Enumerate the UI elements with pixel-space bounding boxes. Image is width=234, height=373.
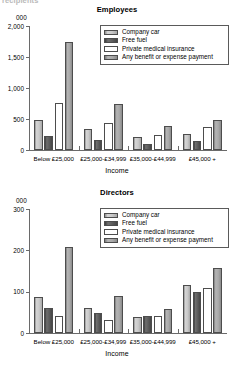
y-axis-unit-directors: 000 bbox=[16, 197, 27, 204]
bar-directors-g2-s1 bbox=[143, 316, 152, 333]
legend-swatch-icon bbox=[104, 221, 118, 226]
chart-page: recipients Employees00005001,0001,5002,0… bbox=[0, 0, 234, 373]
bar-directors-g0-s3 bbox=[65, 247, 74, 333]
y-tick-mark bbox=[26, 209, 29, 210]
bar-directors-g2-s3 bbox=[164, 309, 173, 333]
y-axis-line bbox=[29, 209, 30, 333]
chart-title-directors: Directors bbox=[0, 188, 234, 197]
bar-directors-g3-s1 bbox=[193, 292, 202, 333]
bar-directors-g1-s1 bbox=[94, 313, 103, 333]
group-separator bbox=[79, 329, 80, 334]
chart-panel-directors: Directors0000100200300Below £25,000£25,0… bbox=[0, 0, 234, 373]
legend-item: Private medical insurance bbox=[104, 228, 225, 236]
legend-directors: Company carFree fuelPrivate medical insu… bbox=[100, 208, 229, 248]
bar-directors-g3-s2 bbox=[203, 288, 212, 333]
legend-label: Free fuel bbox=[122, 219, 147, 227]
y-tick-mark bbox=[26, 250, 29, 251]
legend-label: Any benefit or expense payment bbox=[122, 236, 213, 244]
legend-label: Company car bbox=[122, 211, 160, 219]
bar-directors-g0-s2 bbox=[55, 316, 64, 333]
y-tick-label: 100 bbox=[0, 288, 24, 295]
group-separator bbox=[178, 329, 179, 334]
y-tick-label: 200 bbox=[0, 247, 24, 254]
y-tick-mark bbox=[26, 333, 29, 334]
bar-directors-g0-s0 bbox=[34, 297, 43, 333]
bar-directors-g1-s2 bbox=[104, 320, 113, 333]
bar-directors-g2-s0 bbox=[133, 317, 142, 333]
y-tick-label: 0 bbox=[0, 330, 24, 337]
y-tick-mark bbox=[26, 292, 29, 293]
bar-directors-g1-s3 bbox=[114, 296, 123, 333]
legend-item: Any benefit or expense payment bbox=[104, 236, 225, 244]
bar-directors-g3-s0 bbox=[183, 285, 192, 333]
legend-swatch-icon bbox=[104, 213, 118, 218]
bar-directors-g3-s3 bbox=[213, 268, 222, 333]
legend-swatch-icon bbox=[104, 229, 118, 234]
x-axis-label-directors: Income bbox=[0, 350, 234, 357]
legend-item: Company car bbox=[104, 211, 225, 219]
bar-directors-g1-s0 bbox=[84, 308, 93, 333]
bar-directors-g2-s2 bbox=[154, 316, 163, 333]
legend-swatch-icon bbox=[104, 238, 118, 243]
group-separator bbox=[128, 329, 129, 334]
x-category-label: £45,000 + bbox=[172, 338, 234, 345]
legend-item: Free fuel bbox=[104, 219, 225, 227]
legend-label: Private medical insurance bbox=[122, 228, 195, 236]
bar-directors-g0-s1 bbox=[44, 308, 53, 333]
y-tick-label: 300 bbox=[0, 206, 24, 213]
